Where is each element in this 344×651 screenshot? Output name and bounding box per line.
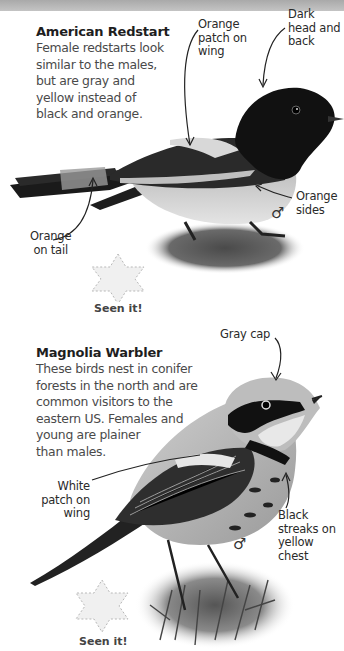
male-symbol: ♂: [233, 535, 246, 553]
annotation-black-streaks: Black streaks on yellow chest: [278, 509, 344, 563]
annotation-white-wing: White patch on wing: [40, 480, 90, 521]
seen-it-checkbox[interactable]: Seen it!: [72, 578, 132, 650]
annotation-gray-cap: Gray cap: [220, 328, 270, 342]
seen-it-label: Seen it!: [79, 635, 128, 648]
star-icon: [72, 578, 132, 634]
